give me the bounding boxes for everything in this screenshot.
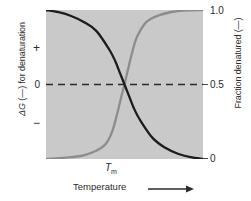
right-tickmark-bottom [203,158,208,159]
plot-area [46,10,203,159]
right-tick-top: 1.0 [210,6,224,16]
left-axis-title-text: (—) for denaturation [17,22,27,103]
denaturation-chart-figure: ΔG (—) for denaturation + 0 − Fraction d… [0,0,251,201]
right-axis-title: Fraction denatured (—) [233,0,243,138]
right-tick-mid: 0.5 [210,80,224,90]
tm-annotation: Tm [105,162,117,177]
plot-svg [46,10,203,159]
x-axis-title: Temperature [73,181,126,192]
arrow-right-icon [148,185,194,193]
left-tick-zero: 0 [18,80,40,90]
tm-subscript: m [111,168,117,175]
left-tick-plus: + [18,43,40,53]
left-tick-minus: − [18,118,40,128]
right-tick-bottom: 0 [210,154,216,164]
right-tickmark-mid [203,84,208,85]
